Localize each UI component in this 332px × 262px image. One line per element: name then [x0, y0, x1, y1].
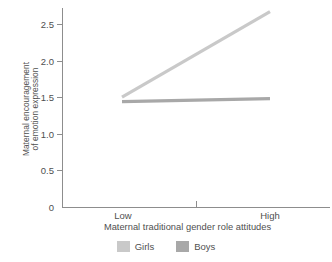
legend-item-girls: Girls [117, 241, 155, 252]
legend-swatch-boys [176, 241, 189, 252]
chart-legend: Girls Boys [0, 241, 332, 252]
chart-figure: Maternal encouragement of emotion expres… [0, 0, 332, 262]
legend-label-boys: Boys [194, 241, 215, 252]
series-plot-area [0, 0, 332, 262]
legend-label-girls: Girls [135, 241, 155, 252]
legend-item-boys: Boys [176, 241, 215, 252]
series-line-girls [122, 12, 270, 98]
series-line-boys [122, 99, 270, 102]
legend-swatch-girls [117, 241, 130, 252]
